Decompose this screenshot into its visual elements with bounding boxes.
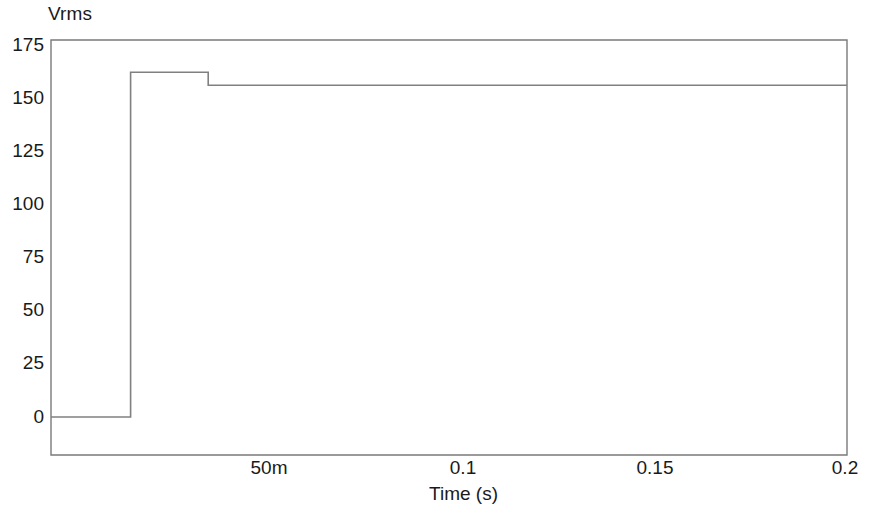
x-axis-label: Time (s) <box>429 483 498 505</box>
axis-frame <box>51 40 847 455</box>
plot-area <box>0 0 875 516</box>
data-series-vrms <box>51 72 847 417</box>
chart-figure: Vrms 175 150 125 100 75 50 25 0 50m 0.1 … <box>0 0 875 516</box>
x-axis-label-wrap: Time (s) <box>0 483 875 505</box>
